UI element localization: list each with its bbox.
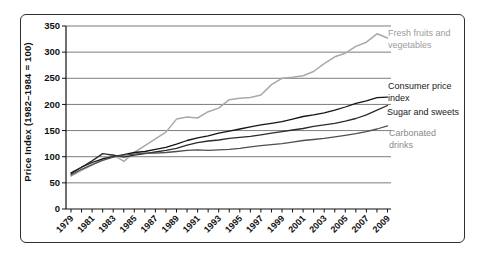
series-label-fresh-fruits-vegetables: Fresh fruits and vegetables xyxy=(388,28,466,51)
y-tick-label: 50 xyxy=(49,177,60,188)
series-label-sugar-and-sweets: Sugar and sweets xyxy=(387,107,477,119)
y-tick-label: 350 xyxy=(44,20,60,31)
y-axis-title: Price Index (1982–1984 = 100) xyxy=(22,42,33,182)
series-line-carbonated-drinks xyxy=(71,126,388,175)
x-tick-label: 1985 xyxy=(117,213,138,234)
x-tick-label: 1987 xyxy=(139,213,160,234)
x-tick-label: 1979 xyxy=(54,213,75,234)
x-tick-label: 1995 xyxy=(223,213,244,234)
series-line-sugar-and-sweets xyxy=(71,106,388,175)
y-tick-label: 100 xyxy=(44,151,60,162)
x-tick-label: 2005 xyxy=(328,213,349,234)
x-tick-label: 2009 xyxy=(371,213,392,234)
series-line-consumer-price-index xyxy=(71,97,388,173)
series-line-fresh-fruits-vegetables xyxy=(71,34,388,176)
y-tick-label: 150 xyxy=(44,125,60,136)
y-tick-label: 300 xyxy=(44,46,60,57)
x-tick-label: 2003 xyxy=(307,213,328,234)
series-label-consumer-price-index: Consumer price index xyxy=(388,81,468,104)
x-tick-label: 1989 xyxy=(160,213,181,234)
x-tick-label: 1981 xyxy=(75,213,96,234)
y-tick-label: 250 xyxy=(44,72,60,83)
series-label-carbonated-drinks: Carbonated drinks xyxy=(389,128,455,151)
x-tick-label: 2007 xyxy=(350,213,371,234)
y-tick-label: 200 xyxy=(44,99,60,110)
x-tick-label: 1997 xyxy=(244,213,265,234)
x-tick-label: 2001 xyxy=(286,213,307,234)
y-tick-label: 0 xyxy=(55,203,60,214)
x-tick-label: 1993 xyxy=(202,213,223,234)
x-tick-label: 1999 xyxy=(265,213,286,234)
x-tick-label: 1991 xyxy=(181,213,202,234)
figure: 0501001502002503003501979198119831985198… xyxy=(0,0,487,262)
x-tick-label: 1983 xyxy=(96,213,117,234)
